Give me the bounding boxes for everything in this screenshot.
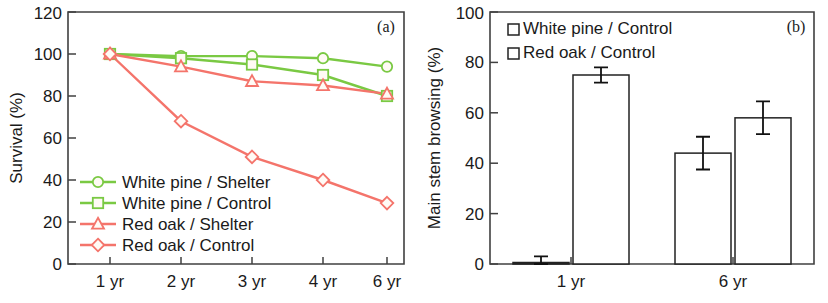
legend-label-0: White pine / Control	[523, 19, 672, 38]
panel-a-y-ticks	[68, 12, 76, 264]
data-point-s0-p4	[382, 61, 392, 71]
data-point-s3-p3	[317, 174, 330, 187]
panel-a-y-axis-title: Survival (%)	[7, 92, 26, 184]
panel-b-ytick-40: 40	[465, 154, 484, 173]
panel-a-ytick-120: 120	[34, 4, 62, 23]
panel-a-xtick-3yr: 3 yr	[238, 272, 267, 291]
figure-container: 0 20 40 60 80 100 120 Survival (%) 1 yr …	[0, 0, 828, 303]
bar-6yr-s1	[735, 118, 791, 264]
legend-label-0: White pine / Shelter	[122, 173, 271, 192]
panel-a-xtick-4yr: 4 yr	[309, 272, 338, 291]
panel-a-survival-line-chart: 0 20 40 60 80 100 120 Survival (%) 1 yr …	[0, 0, 414, 303]
panel-a-ytick-20: 20	[43, 213, 62, 232]
panel-a-ytick-100: 100	[34, 45, 62, 64]
panel-a-xtick-2yr: 2 yr	[167, 272, 196, 291]
data-point-s3-p2	[246, 151, 259, 164]
panel-b-y-ticks	[490, 12, 498, 264]
legend-swatch-0	[508, 24, 519, 35]
panel-a-ytick-40: 40	[43, 171, 62, 190]
panel-b-ytick-80: 80	[465, 53, 484, 72]
panel-a-tag: (a)	[377, 18, 395, 36]
legend-marker-0	[93, 177, 103, 187]
panel-a-ytick-80: 80	[43, 87, 62, 106]
legend-label-2: Red oak / Shelter	[122, 215, 254, 234]
panel-b-xtick-6yr: 6 yr	[719, 272, 748, 291]
panel-b-browsing-bar-chart: 0 20 40 60 80 100 Main stem browsing (%)…	[414, 0, 828, 303]
panel-b-svg: 0 20 40 60 80 100 Main stem browsing (%)…	[414, 0, 828, 303]
legend-label-3: Red oak / Control	[122, 236, 254, 255]
data-point-s1-p2	[247, 59, 257, 69]
panel-b-tag: (b)	[787, 18, 806, 36]
panel-b-ytick-60: 60	[465, 104, 484, 123]
panel-a-ytick-60: 60	[43, 129, 62, 148]
panel-a-svg: 0 20 40 60 80 100 120 Survival (%) 1 yr …	[0, 0, 414, 303]
bar-1yr-s1	[573, 75, 629, 264]
panel-a-x-ticks	[110, 257, 387, 264]
panel-b-ytick-100: 100	[456, 4, 484, 23]
data-point-s3-p4	[381, 197, 394, 210]
panel-b-xtick-1yr: 1 yr	[557, 272, 586, 291]
data-point-s0-p3	[318, 53, 328, 63]
panel-b-bars-group	[513, 67, 791, 264]
panel-a-xtick-6yr: 6 yr	[373, 272, 402, 291]
legend-label-1: White pine / Control	[122, 194, 271, 213]
panel-b-y-axis-title: Main stem browsing (%)	[425, 47, 444, 229]
panel-a-xtick-1yr: 1 yr	[96, 272, 125, 291]
panel-b-legend: White pine / ControlRed oak / Control	[508, 19, 672, 62]
panel-a-legend: White pine / ShelterWhite pine / Control…	[80, 173, 271, 255]
legend-marker-3	[92, 239, 105, 252]
legend-label-1: Red oak / Control	[523, 43, 655, 62]
panel-a-ytick-0: 0	[53, 255, 62, 274]
panel-b-ytick-0: 0	[475, 255, 484, 274]
legend-marker-1	[93, 198, 103, 208]
legend-swatch-1	[508, 48, 519, 59]
panel-b-ytick-20: 20	[465, 205, 484, 224]
